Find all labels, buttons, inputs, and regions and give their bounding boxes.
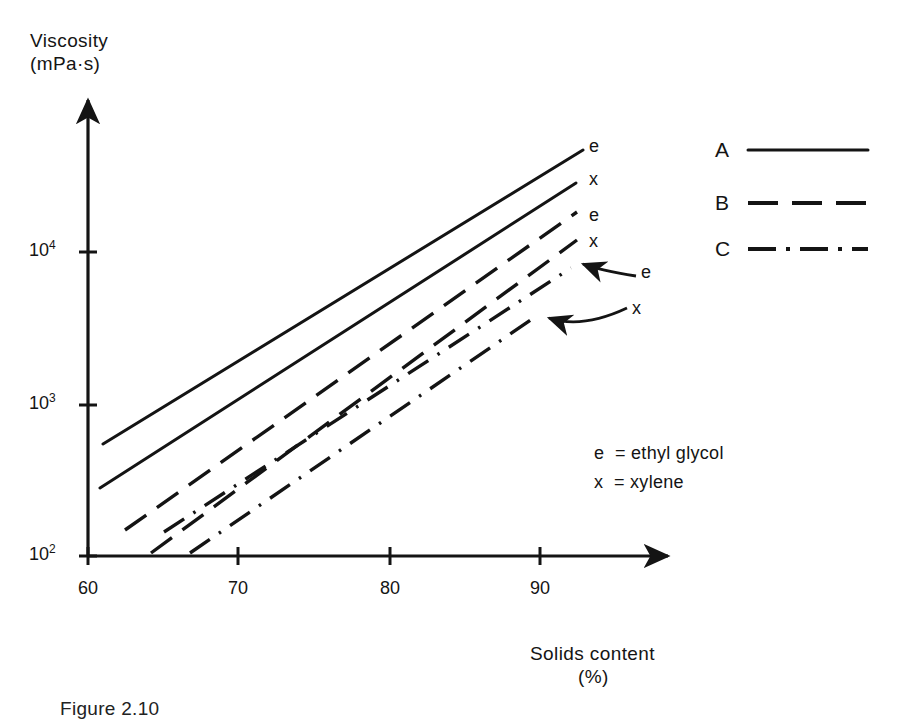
y-axis-title-line2: (mPa·s)	[30, 53, 100, 75]
y-tick-label-1e3-base: 10	[29, 393, 49, 413]
y-tick-label-1e3: 103	[29, 393, 56, 414]
series-label-C-ethyl-glycol: e	[641, 262, 651, 283]
y-tick-label-1e2-base: 10	[29, 544, 49, 564]
y-tick-label-1e4-base: 10	[29, 240, 49, 260]
key-symbol-e: e	[594, 443, 604, 463]
y-axis-title-line1: Viscosity	[30, 30, 108, 52]
series-label-C-xylene: x	[632, 298, 641, 319]
series-line-C-xylene	[190, 315, 538, 553]
series-label-A-xylene: x	[589, 169, 598, 190]
series-line-C-ethyl-glycol	[164, 268, 571, 532]
x-tick-label-90: 90	[530, 578, 550, 599]
y-tick-label-1e2-exp: 2	[49, 542, 56, 556]
y-tick-label-1e4-exp: 4	[49, 238, 56, 252]
key-row-ethyl-glycol: e = ethyl glycol	[594, 443, 724, 464]
y-tick-label-1e2: 102	[29, 544, 56, 565]
key-name-ethyl-glycol: ethyl glycol	[631, 443, 724, 463]
key-row-xylene: x = xylene	[594, 472, 684, 493]
figure-caption-clip: Figure 2.10	[60, 700, 620, 722]
series-line-B-xylene	[151, 240, 577, 553]
series-line-B-ethyl-glycol	[125, 212, 577, 530]
legend-label-A: A	[715, 138, 730, 163]
legend-label-B: B	[715, 191, 730, 216]
x-tick-label-60: 60	[78, 578, 98, 599]
series-label-B-ethyl-glycol: e	[589, 205, 599, 226]
figure-container: Viscosity (mPa·s) 104 103 102 60 70 80 9…	[0, 0, 906, 722]
key-equals-e: =	[615, 443, 626, 463]
chart-canvas	[0, 0, 906, 722]
series-line-A-ethyl-glycol	[103, 150, 583, 444]
series-line-A-xylene	[100, 183, 576, 488]
x-tick-label-70: 70	[228, 578, 248, 599]
key-equals-x: =	[614, 472, 625, 492]
key-symbol-x: x	[594, 472, 603, 492]
y-tick-label-1e4: 104	[29, 240, 56, 261]
y-tick-label-1e3-exp: 3	[49, 391, 56, 405]
x-tick-label-80: 80	[380, 578, 400, 599]
callout-arrow-C-ethyl-glycol	[583, 264, 636, 276]
series-label-A-ethyl-glycol: e	[589, 136, 599, 157]
key-name-xylene: xylene	[630, 472, 684, 492]
callout-arrow-C-xylene	[549, 308, 627, 322]
legend-label-C: C	[715, 237, 731, 262]
x-axis-title-line1: Solids content	[530, 643, 655, 665]
x-axis-title-line2: (%)	[578, 666, 609, 688]
figure-caption-text: Figure 2.10	[60, 700, 159, 720]
series-label-B-xylene: x	[589, 231, 598, 252]
